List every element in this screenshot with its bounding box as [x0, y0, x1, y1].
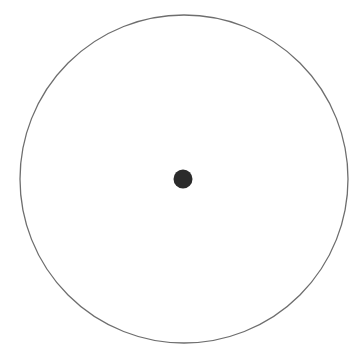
center-dot	[174, 170, 193, 189]
circle-diagram	[0, 0, 358, 356]
